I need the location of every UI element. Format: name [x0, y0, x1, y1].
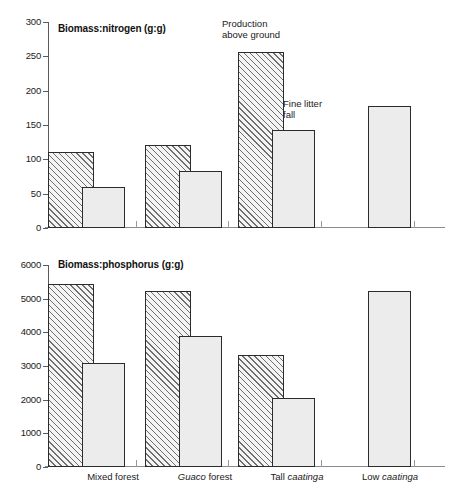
y-axis-tick-label: 2000 [21, 395, 41, 405]
x-axis-tick [414, 460, 415, 467]
y-axis-tick [43, 125, 48, 126]
y-axis-tick-label: 6000 [21, 260, 41, 270]
y-axis-tick-label: 1000 [21, 429, 41, 439]
y-axis-tick-label: 100 [26, 155, 41, 165]
plot-area-phosphorus: 0100020003000400050006000 [48, 265, 445, 467]
y-axis-tick-label: 200 [26, 86, 41, 96]
figure-biomass-nutrient-ratios: Biomass:nitrogen (g:g) Production above … [0, 0, 450, 496]
x-axis-tick [321, 221, 322, 228]
x-axis-tick [414, 221, 415, 228]
x-axis-category-label: Mixed forest [87, 472, 139, 482]
y-axis-tick-label: 50 [31, 189, 41, 199]
x-axis-tick [228, 460, 229, 467]
y-axis-tick [43, 265, 48, 266]
plot-area-nitrogen: 050100150200250300 [48, 22, 445, 228]
y-axis-tick-label: 0 [36, 462, 41, 472]
y-axis-tick [43, 22, 48, 23]
y-axis-tick-label: 300 [26, 17, 41, 27]
y-axis-tick [43, 91, 48, 92]
panel-biomass-nitrogen: Biomass:nitrogen (g:g) Production above … [0, 0, 450, 250]
y-axis-tick-label: 3000 [21, 361, 41, 371]
x-axis-tick [321, 460, 322, 467]
bar-fine-litter-fall [272, 398, 315, 467]
x-axis-category-label: Low caatinga [362, 472, 418, 482]
x-axis-tick [136, 221, 137, 228]
y-axis-tick-label: 150 [26, 120, 41, 130]
bar-fine-litter-fall [272, 130, 315, 228]
bar-fine-litter-fall [82, 187, 125, 228]
x-axis-category-label: Guaco forest [178, 472, 232, 482]
y-axis-tick-label: 4000 [21, 328, 41, 338]
y-axis-tick-label: 0 [36, 223, 41, 233]
x-axis-tick [228, 221, 229, 228]
bar-fine-litter-fall [368, 291, 411, 467]
x-axis-tick [136, 460, 137, 467]
y-axis-tick [43, 56, 48, 57]
bar-fine-litter-fall [179, 171, 222, 228]
bar-fine-litter-fall [368, 106, 411, 228]
x-axis-category-label: Tall caatinga [271, 472, 324, 482]
y-axis-tick [43, 467, 48, 468]
panel-biomass-phosphorus: Biomass:phosphorus (g:g) 010002000300040… [0, 250, 450, 496]
y-axis-tick [43, 228, 48, 229]
bar-fine-litter-fall [179, 336, 222, 467]
bar-fine-litter-fall [82, 363, 125, 467]
y-axis-tick-label: 250 [26, 52, 41, 62]
y-axis-tick-label: 5000 [21, 294, 41, 304]
